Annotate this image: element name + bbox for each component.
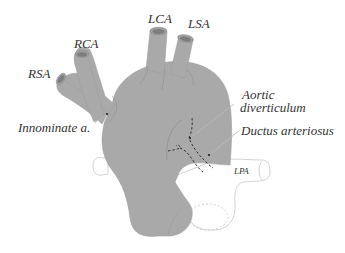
label-lca: LCA [148, 12, 172, 25]
innominate-dot [106, 113, 108, 115]
label-lpa: LPA [234, 167, 249, 176]
label-lsa: LSA [188, 17, 210, 30]
lca-branch [146, 29, 167, 74]
label-aortic-diverticulum-2: diverticulum [240, 101, 306, 114]
ductus-dot [208, 154, 210, 156]
aortic-arch-diagram: RSA RCA LCA LSA Innominate a. Aortic div… [0, 0, 345, 253]
rca-lumen-inner [77, 52, 87, 56]
label-rsa: RSA [28, 67, 50, 80]
label-innominate-artery: Innominate a. [18, 121, 90, 134]
right-pulmonary-artery-outline [93, 157, 108, 175]
label-ductus-arteriosus: Ductus arteriosus [241, 124, 334, 137]
label-rca: RCA [74, 37, 99, 50]
lca-lumen-inner [153, 29, 165, 34]
diverticulum-dot [189, 137, 191, 139]
